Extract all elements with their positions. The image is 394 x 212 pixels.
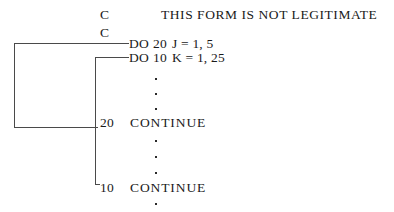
continue-20-statement: CONTINUE [130, 116, 206, 130]
outer-bracket-bottom-rule [14, 127, 98, 128]
ellipsis-dot [155, 203, 157, 205]
do-20-keyword: DO [129, 37, 149, 51]
inner-bracket-left-rule [95, 57, 96, 185]
inner-bracket-top-rule [95, 57, 129, 58]
ellipsis-dot [155, 108, 157, 110]
outer-bracket-left-rule [14, 43, 15, 128]
comment-marker-line-2: C [100, 26, 109, 40]
do-20-target-label: 20 [153, 37, 167, 51]
do-10-target-label: 10 [153, 51, 167, 65]
ellipsis-dot [155, 172, 157, 174]
continue-10-statement: CONTINUE [130, 181, 206, 195]
ellipsis-dot [155, 93, 157, 95]
ellipsis-dot [155, 156, 157, 158]
ellipsis-dot [155, 140, 157, 142]
do-10-control: K = 1, 25 [172, 51, 225, 65]
ellipsis-dot [155, 78, 157, 80]
header-note: THIS FORM IS NOT LEGITIMATE [161, 8, 377, 22]
do-10-keyword: DO [129, 51, 149, 65]
do-20-control: J = 1, 5 [172, 37, 213, 51]
comment-marker-line-1: C [100, 8, 109, 22]
continue-20-label: 20 [100, 116, 114, 130]
fortran-loop-diagram: C C THIS FORM IS NOT LEGITIMATE DO 20 J … [0, 0, 394, 212]
outer-bracket-top-rule [14, 43, 129, 44]
continue-10-label: 10 [100, 181, 114, 195]
